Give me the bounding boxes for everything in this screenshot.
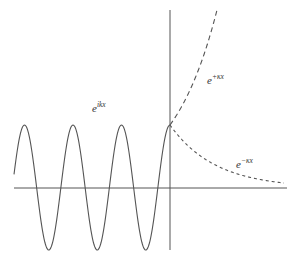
oscillating-wave-curve xyxy=(14,125,170,250)
wavefunction-diagram: eikx e+κx e−κx xyxy=(0,0,300,266)
growing-exponential-curve xyxy=(170,10,217,125)
label-growing: e+κx xyxy=(207,72,225,86)
label-oscillating: eikx xyxy=(92,100,106,114)
label-decaying: e−κx xyxy=(236,156,254,170)
decaying-exponential-curve xyxy=(170,125,284,183)
